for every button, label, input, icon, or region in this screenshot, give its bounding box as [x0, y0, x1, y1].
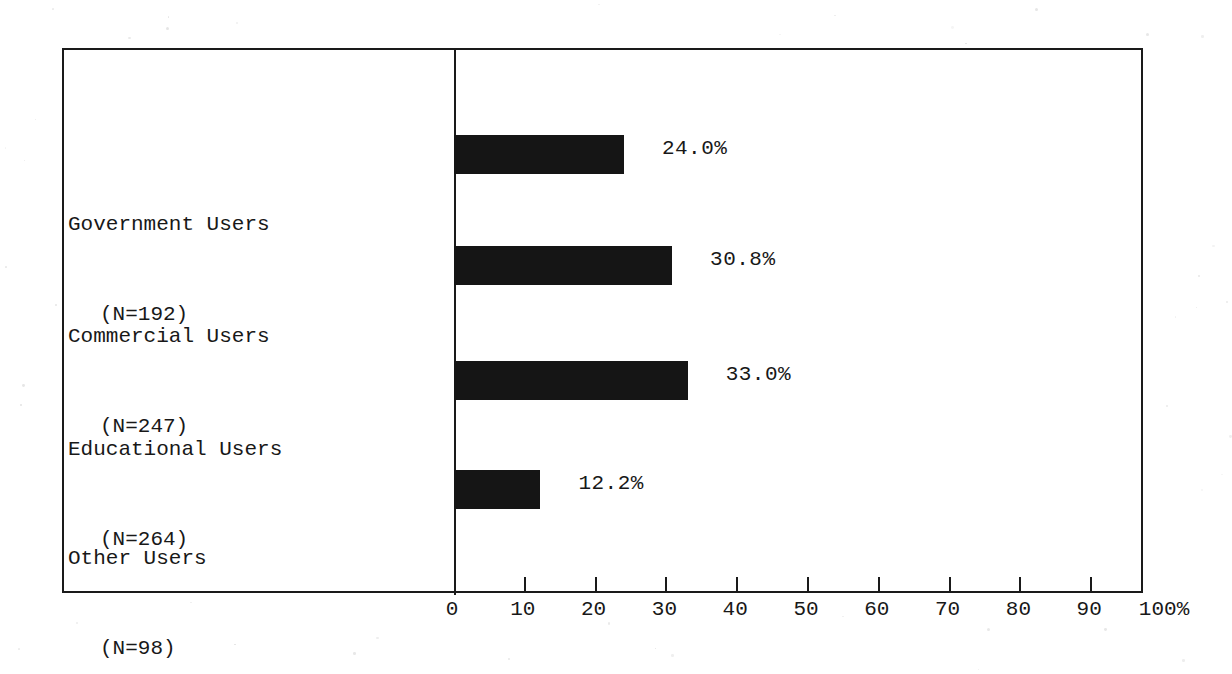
scan-speckle	[1201, 489, 1203, 491]
x-axis-tick	[878, 577, 880, 591]
scan-speckle	[166, 27, 169, 30]
scan-speckle	[508, 658, 510, 660]
x-axis-tick	[1019, 577, 1021, 591]
scan-speckle	[20, 404, 22, 406]
x-axis-tick	[1090, 577, 1092, 591]
scan-speckle	[951, 26, 954, 29]
x-axis-tick	[736, 577, 738, 591]
scan-speckle	[978, 669, 980, 671]
x-axis-tick	[949, 577, 951, 591]
x-axis-tick-layer	[454, 50, 1141, 591]
scan-speckle	[35, 119, 36, 120]
scan-speckle	[655, 648, 656, 649]
x-axis-tick-label: 10	[510, 598, 535, 621]
scan-speckle	[1221, 474, 1223, 476]
scan-speckle	[1198, 275, 1200, 277]
category-count: (N=98)	[68, 634, 448, 664]
scan-speckle	[987, 628, 990, 631]
scan-speckle	[965, 43, 966, 44]
scan-speckle	[128, 37, 131, 40]
x-axis-tick-label: 80	[1006, 598, 1031, 621]
x-axis-tick-label: 90	[1077, 598, 1102, 621]
x-axis-tick	[665, 577, 667, 591]
x-axis-tick-label: 100%	[1139, 598, 1189, 621]
scan-speckle	[55, 304, 57, 306]
category-name: Other Users	[68, 544, 448, 574]
scan-speckle	[1104, 628, 1107, 631]
scan-speckle	[779, 34, 780, 35]
x-axis-tick-label: 20	[581, 598, 606, 621]
scan-speckle	[1175, 316, 1177, 318]
x-axis-tick	[524, 577, 526, 591]
scan-speckle	[52, 8, 54, 10]
chart-frame: Government Users (N=192) Commercial User…	[62, 48, 1143, 593]
scan-speckle	[5, 147, 6, 148]
scan-speckle	[236, 22, 238, 24]
scan-speckle	[608, 622, 610, 624]
category-name: Commercial Users	[68, 322, 448, 352]
scan-speckle	[1201, 35, 1203, 37]
scan-speckle	[22, 384, 25, 387]
scan-speckle	[598, 4, 600, 6]
scan-speckle	[842, 616, 843, 617]
scan-speckle	[1212, 245, 1215, 248]
category-label-other: Other Users (N=98)	[68, 484, 448, 674]
scan-speckle	[168, 16, 169, 17]
x-axis-tick-label: 50	[793, 598, 818, 621]
category-name: Educational Users	[68, 435, 448, 465]
x-axis-tick-label: 70	[935, 598, 960, 621]
scan-speckle	[24, 160, 26, 162]
scan-speckle	[5, 266, 7, 268]
category-name: Government Users	[68, 210, 448, 240]
scan-speckle	[1166, 405, 1169, 408]
x-axis-tick	[807, 577, 809, 591]
x-axis-tick-label: 30	[652, 598, 677, 621]
scan-speckle	[1182, 659, 1185, 662]
scan-speckle	[671, 654, 673, 656]
x-axis-tick-label: 40	[723, 598, 748, 621]
scan-speckle	[18, 648, 20, 650]
x-axis-tick	[595, 577, 597, 591]
scan-speckle	[1035, 8, 1038, 11]
scan-speckle	[834, 15, 835, 16]
scan-speckle	[1226, 301, 1228, 303]
scan-speckle	[1146, 33, 1149, 36]
scan-speckle	[1196, 307, 1197, 308]
x-axis-tick-label: 60	[864, 598, 889, 621]
scan-speckle	[1229, 435, 1232, 438]
x-axis-tick-label: 0	[446, 598, 459, 621]
